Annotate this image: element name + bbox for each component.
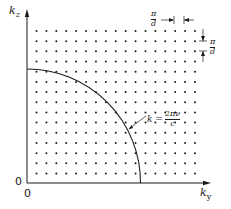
lattice-point <box>85 142 87 144</box>
lattice-point <box>164 50 166 52</box>
lattice-point <box>105 61 107 63</box>
lattice-point <box>184 122 186 124</box>
lattice-point <box>144 50 146 52</box>
lattice-point <box>95 173 97 175</box>
lattice-point <box>144 40 146 42</box>
lattice-point <box>115 81 117 83</box>
lattice-point <box>65 132 67 134</box>
lattice-point <box>194 173 196 175</box>
lattice-point <box>75 61 77 63</box>
lattice-point <box>184 61 186 63</box>
ky-axis-label: ky <box>200 186 211 201</box>
lattice-point <box>105 50 107 52</box>
lattice-point <box>55 50 57 52</box>
origin-label-vertical: 0 <box>15 175 22 188</box>
lattice-point <box>65 91 67 93</box>
lattice-point <box>65 71 67 73</box>
lattice-point <box>174 50 176 52</box>
lattice-point <box>85 40 87 42</box>
lattice-point <box>154 152 156 154</box>
lattice-point <box>85 152 87 154</box>
lattice-point <box>65 40 67 42</box>
lattice-point <box>55 132 57 134</box>
lattice-point <box>125 152 127 154</box>
lattice-point <box>125 71 127 73</box>
lattice-point <box>85 132 87 134</box>
lattice-point <box>194 162 196 164</box>
lattice-point <box>164 152 166 154</box>
lattice-point <box>45 81 47 83</box>
lattice-point <box>154 162 156 164</box>
lattice-point <box>164 142 166 144</box>
lattice-point <box>105 132 107 134</box>
lattice-point <box>115 40 117 42</box>
lattice-point <box>36 152 38 154</box>
lattice-point <box>75 122 77 124</box>
lattice-point <box>115 61 117 63</box>
lattice-point <box>125 122 127 124</box>
lattice-point <box>45 173 47 175</box>
lattice-point <box>184 50 186 52</box>
lattice-point <box>174 162 176 164</box>
lattice-point <box>55 152 57 154</box>
lattice-point <box>184 142 186 144</box>
lattice-point <box>135 30 137 32</box>
lattice-point <box>75 91 77 93</box>
lattice-point <box>115 50 117 52</box>
lattice-point <box>115 142 117 144</box>
lattice-point <box>135 111 137 113</box>
lattice-point <box>164 101 166 103</box>
lattice-point <box>95 61 97 63</box>
lattice-point <box>65 101 67 103</box>
lattice-point <box>115 132 117 134</box>
lattice-point <box>36 101 38 103</box>
lattice-point <box>75 132 77 134</box>
lattice-point <box>95 162 97 164</box>
lattice-point <box>105 122 107 124</box>
lattice-point <box>36 61 38 63</box>
lattice-point <box>105 173 107 175</box>
lattice-point <box>174 132 176 134</box>
lattice-point <box>164 91 166 93</box>
lattice-point <box>36 81 38 83</box>
lattice-point <box>135 61 137 63</box>
lattice-point <box>75 40 77 42</box>
lattice-point <box>95 50 97 52</box>
lattice-point <box>154 132 156 134</box>
lattice-point <box>75 30 77 32</box>
lattice-point <box>194 81 196 83</box>
lattice-point <box>174 71 176 73</box>
lattice-point <box>125 40 127 42</box>
lattice-point <box>194 61 196 63</box>
lattice-point <box>105 111 107 113</box>
lattice-point <box>85 30 87 32</box>
lattice-point <box>154 40 156 42</box>
lattice-point <box>45 132 47 134</box>
lattice-point <box>105 30 107 32</box>
lattice-point <box>75 173 77 175</box>
lattice-point <box>144 142 146 144</box>
lattice-point <box>194 71 196 73</box>
lattice-point <box>184 173 186 175</box>
lattice-point <box>85 71 87 73</box>
lattice-point <box>85 122 87 124</box>
lattice-point <box>65 30 67 32</box>
lattice-point <box>174 40 176 42</box>
lattice-point <box>125 111 127 113</box>
lattice-point <box>194 132 196 134</box>
lattice-point <box>125 162 127 164</box>
lattice-point <box>144 101 146 103</box>
lattice-point <box>95 152 97 154</box>
lattice-point <box>115 71 117 73</box>
lattice-point <box>135 132 137 134</box>
lattice-point <box>55 91 57 93</box>
lattice-point <box>36 91 38 93</box>
lattice-point <box>115 152 117 154</box>
lattice-point <box>115 162 117 164</box>
lattice-point <box>85 173 87 175</box>
lattice-point <box>144 61 146 63</box>
lattice-point <box>45 152 47 154</box>
kz-axis-label: kz <box>9 4 20 19</box>
lattice-point <box>184 132 186 134</box>
lattice-point <box>115 91 117 93</box>
